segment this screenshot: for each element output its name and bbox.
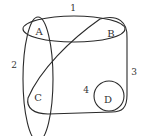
hypergraph-diagram: A B C D 1 2 3 4 bbox=[0, 0, 146, 136]
hyperedge-label-4: 4 bbox=[83, 85, 89, 95]
vertex-label-d: D bbox=[104, 94, 112, 105]
vertex-label-b: B bbox=[107, 28, 114, 39]
hyperedge-label-1: 1 bbox=[70, 3, 76, 13]
vertex-label-c: C bbox=[34, 92, 42, 103]
hyperedge-label-3: 3 bbox=[131, 67, 137, 77]
vertex-label-a: A bbox=[34, 26, 43, 37]
hyperedge-label-2: 2 bbox=[11, 60, 17, 70]
